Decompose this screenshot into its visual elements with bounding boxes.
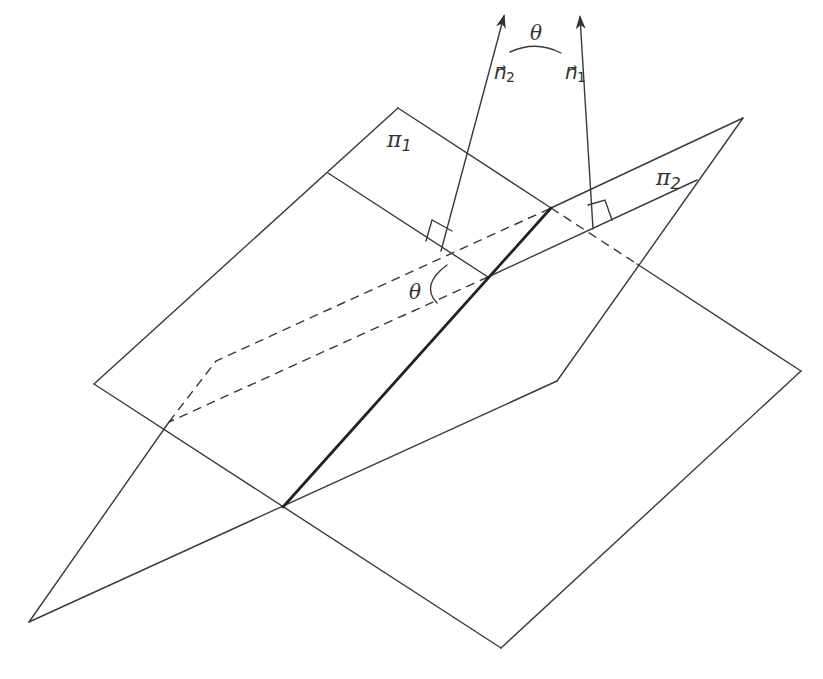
pi1-edge-bottom-left (94, 384, 501, 648)
pi1-edge-top-left (94, 108, 398, 384)
n2-letter: n (494, 60, 507, 84)
label-theta-normals: θ (530, 21, 542, 45)
n1-letter: n (565, 60, 578, 84)
label-pi1: π1 (386, 127, 412, 155)
n2-subscript: 2 (506, 69, 515, 85)
label-pi2: π2 (655, 165, 681, 193)
pi1-perpendicular-line (328, 173, 488, 277)
normal-n1-line (580, 17, 593, 229)
pi2-edge-right-upper (557, 118, 743, 381)
pi1-edge-top-right-lower (637, 264, 801, 371)
planes-angle-diagram: π1 π2 θ θ → n 2 → n 1 (0, 0, 823, 679)
plane-pi1 (94, 108, 801, 648)
pi2-edge-hidden (169, 208, 551, 422)
pi2-edge-top-visible (551, 118, 743, 208)
label-theta-planes: θ (409, 280, 421, 304)
pi1-edge-top-right-hidden (551, 208, 637, 264)
normal-n2-line (441, 16, 504, 251)
pi2-edge-bottom (29, 381, 557, 622)
angle-arc-normals (510, 46, 561, 53)
n1-subscript: 1 (577, 69, 586, 85)
pi1-edge-top-right-visible (398, 108, 551, 208)
pi2-edge-left (29, 422, 169, 622)
intersection-line (283, 208, 551, 507)
pi2-perpendicular-hidden (169, 277, 488, 422)
pi1-edge-bottom-right (501, 371, 801, 648)
plane-pi2 (29, 118, 743, 622)
label-n2: → n 2 (494, 60, 515, 85)
